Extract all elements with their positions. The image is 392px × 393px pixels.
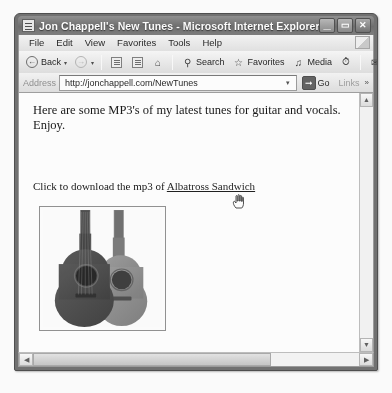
menu-item-favorites[interactable]: Favorites (111, 35, 162, 51)
menu-item-help[interactable]: Help (196, 35, 228, 51)
horizontal-scrollbar[interactable]: ◀ ▶ (18, 352, 374, 367)
toolbar-separator (101, 55, 102, 70)
history-clock-icon: ⏱ (339, 55, 353, 69)
links-label[interactable]: Links (335, 78, 360, 88)
menu-item-edit[interactable]: Edit (50, 35, 78, 51)
back-dropdown-icon[interactable]: ▾ (64, 59, 67, 66)
vertical-scrollbar[interactable]: ▲ ▼ (359, 93, 373, 352)
scroll-left-button[interactable]: ◀ (19, 353, 33, 366)
refresh-icon (130, 55, 144, 69)
favorites-label: Favorites (248, 57, 285, 67)
address-label: Address (23, 78, 56, 88)
scroll-right-button[interactable]: ▶ (359, 353, 373, 366)
ie-document-icon (22, 19, 35, 32)
menu-bar: File Edit View Favorites Tools Help (18, 35, 374, 51)
refresh-button[interactable] (127, 53, 147, 72)
star-icon: ☆ (232, 55, 246, 69)
page-viewport: Here are some MP3's of my latest tunes f… (18, 93, 374, 352)
close-icon: ✕ (356, 19, 370, 32)
search-icon: ⚲ (180, 55, 194, 69)
stop-icon (109, 55, 123, 69)
home-icon: ⌂ (151, 55, 165, 69)
scroll-down-button[interactable]: ▼ (360, 338, 373, 352)
go-label: Go (318, 78, 330, 88)
address-input[interactable]: http://jonchappell.com/NewTunes ▾ (59, 75, 296, 91)
address-bar: Address http://jonchappell.com/NewTunes … (18, 73, 374, 93)
document-content: Here are some MP3's of my latest tunes f… (19, 93, 359, 352)
forward-arrow-icon: → (74, 55, 88, 69)
maximize-button[interactable]: ▭ (337, 18, 353, 33)
vertical-scroll-track[interactable] (360, 107, 373, 338)
back-arrow-icon: ← (25, 55, 39, 69)
menu-item-view[interactable]: View (79, 35, 111, 51)
mail-icon: ✉ (368, 55, 378, 69)
links-overflow-icon[interactable]: » (363, 78, 371, 87)
back-label: Back (41, 57, 61, 67)
toolbar-separator (360, 55, 361, 70)
windows-flag-icon (355, 36, 370, 49)
forward-dropdown-icon[interactable]: ▾ (91, 59, 94, 66)
browser-window: Jon Chappell's New Tunes - Microsoft Int… (14, 13, 378, 371)
menu-item-file[interactable]: File (23, 35, 50, 51)
screenshot-canvas: Jon Chappell's New Tunes - Microsoft Int… (0, 0, 392, 393)
back-button[interactable]: ← Back ▾ (22, 53, 70, 72)
scroll-up-button[interactable]: ▲ (360, 93, 373, 107)
minimize-icon: _ (320, 19, 334, 32)
favorites-button[interactable]: ☆ Favorites (229, 53, 288, 72)
horizontal-scroll-track[interactable] (33, 353, 359, 366)
address-value: http://jonchappell.com/NewTunes (65, 78, 282, 88)
maximize-icon: ▭ (338, 19, 352, 32)
toolbar-separator (172, 55, 173, 70)
intro-paragraph: Here are some MP3's of my latest tunes f… (33, 103, 343, 133)
go-arrow-icon: ➞ (302, 76, 316, 90)
window-controls: _ ▭ ✕ (319, 18, 372, 33)
title-bar[interactable]: Jon Chappell's New Tunes - Microsoft Int… (18, 16, 374, 35)
media-label: Media (308, 57, 333, 67)
forward-button[interactable]: → ▾ (71, 53, 97, 72)
search-label: Search (196, 57, 225, 67)
guitars-image (39, 206, 166, 331)
minimize-button[interactable]: _ (319, 18, 335, 33)
navigation-toolbar: ← Back ▾ → ▾ ⌂ ⚲ (18, 51, 374, 73)
media-button[interactable]: ♫ Media (289, 53, 336, 72)
search-button[interactable]: ⚲ Search (177, 53, 228, 72)
menu-item-tools[interactable]: Tools (162, 35, 196, 51)
home-button[interactable]: ⌂ (148, 53, 168, 72)
download-line: Click to download the mp3 of Albatross S… (33, 180, 255, 192)
go-button[interactable]: ➞ Go (300, 76, 332, 90)
download-line-prefix: Click to download the mp3 of (33, 180, 167, 192)
chevron-down-icon[interactable]: ▾ (283, 79, 294, 87)
stop-button[interactable] (106, 53, 126, 72)
window-title: Jon Chappell's New Tunes - Microsoft Int… (39, 20, 319, 32)
hand-cursor-icon (232, 193, 246, 209)
media-icon: ♫ (292, 55, 306, 69)
close-button[interactable]: ✕ (355, 18, 371, 33)
horizontal-scroll-thumb[interactable] (33, 353, 271, 366)
mail-button[interactable]: ✉ ▾ (365, 53, 378, 72)
albatross-sandwich-link[interactable]: Albatross Sandwich (167, 180, 255, 192)
guitars-illustration (43, 210, 162, 327)
history-button[interactable]: ⏱ (336, 53, 356, 72)
